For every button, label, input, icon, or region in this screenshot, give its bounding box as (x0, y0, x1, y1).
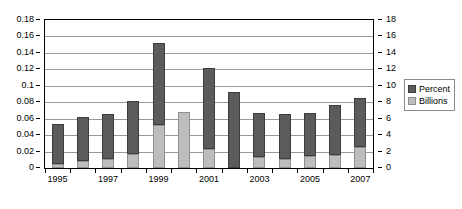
x-axis-labels: 1995199719992001200320052007 (45, 172, 373, 188)
y-tick-mark-left (36, 151, 40, 152)
y-tick-mark-left (36, 134, 40, 135)
y-tick-label-left: 0.1 (21, 81, 34, 90)
bar-segment-billions (329, 155, 341, 168)
bar-column (304, 20, 316, 168)
y-tick-label-right: 4 (386, 130, 391, 139)
bar-segment-percent (228, 92, 240, 168)
bar-segment-billions (127, 154, 139, 168)
y-tick-label-right: 14 (386, 48, 396, 57)
bar-segment-billions (178, 112, 190, 168)
bar-segment-percent (153, 43, 165, 125)
y-tick-label-right: 18 (386, 15, 396, 24)
bar-segment-billions (354, 147, 366, 168)
y-tick-mark-left (36, 68, 40, 69)
x-tick-mark (373, 169, 374, 173)
y-tick-label-right: 0 (386, 163, 391, 172)
bar-column (354, 20, 366, 168)
y-tick-mark-right (378, 35, 382, 36)
bar-segment-percent (52, 124, 64, 163)
bar-column (203, 20, 215, 168)
chart-legend: Percent Billions (404, 79, 455, 111)
bar-segment-percent (203, 68, 215, 149)
bar-column (52, 20, 64, 168)
y-tick-label-right: 2 (386, 147, 391, 156)
y-tick-mark-left (36, 118, 40, 119)
y-tick-label-left: 0.08 (16, 97, 34, 106)
bar-segment-percent (77, 117, 89, 161)
y-tick-label-left: 0.06 (16, 114, 34, 123)
y-tick-mark-right (378, 52, 382, 53)
bar-segment-billions (279, 159, 291, 168)
y-tick-mark-right (378, 134, 382, 135)
bar-column (153, 20, 165, 168)
legend-label-billions: Billions (419, 96, 448, 106)
y-tick-mark-left (36, 167, 40, 168)
x-axis-label: 1995 (45, 174, 70, 184)
y-tick-mark-left (36, 35, 40, 36)
legend-swatch-billions-icon (408, 97, 416, 105)
bar-column (228, 20, 240, 168)
legend-item-billions: Billions (408, 95, 450, 107)
y-tick-mark-right (378, 101, 382, 102)
y-tick-mark-left (36, 52, 40, 53)
y-tick-label-left: 0.02 (16, 147, 34, 156)
bar-segment-billions (253, 157, 265, 169)
bar-segment-percent (127, 101, 139, 154)
bar-segment-billions (102, 159, 114, 168)
y-tick-label-left: 0.16 (16, 31, 34, 40)
bar-segment-percent (354, 98, 366, 147)
bar-segment-billions (77, 161, 89, 168)
y-tick-label-left: 0.18 (16, 15, 34, 24)
y-tick-mark-right (378, 167, 382, 168)
bar-column (77, 20, 89, 168)
chart-container: 0.180.160.140.120.10.080.060.040.020 181… (0, 0, 462, 209)
legend-swatch-percent-icon (408, 85, 416, 93)
y-tick-mark-right (378, 68, 382, 69)
x-axis-label: 1997 (95, 174, 120, 184)
bar-segment-billions (203, 149, 215, 168)
y-tick-label-right: 8 (386, 97, 391, 106)
y-tick-label-left: 0 (29, 163, 34, 172)
y-axis-left: 0.180.160.140.120.10.080.060.040.020 (0, 19, 40, 169)
y-tick-label-right: 16 (386, 31, 396, 40)
x-axis-label: 2003 (247, 174, 272, 184)
bars-layer (45, 20, 373, 168)
legend-item-percent: Percent (408, 83, 450, 95)
legend-label-percent: Percent (419, 84, 450, 94)
x-axis-label: 1999 (146, 174, 171, 184)
y-tick-mark-right (378, 151, 382, 152)
bar-segment-percent (304, 113, 316, 156)
y-tick-mark-left (36, 101, 40, 102)
y-tick-label-right: 12 (386, 64, 396, 73)
bar-segment-billions (52, 164, 64, 168)
y-tick-label-left: 0.12 (16, 64, 34, 73)
y-tick-label-right: 6 (386, 114, 391, 123)
bar-segment-billions (304, 156, 316, 168)
bar-segment-billions (153, 125, 165, 168)
bar-segment-percent (329, 105, 341, 155)
x-axis-label: 2001 (196, 174, 221, 184)
bar-segment-percent (253, 113, 265, 157)
bar-column (253, 20, 265, 168)
x-axis-label: 2007 (348, 174, 373, 184)
y-tick-label-left: 0.14 (16, 48, 34, 57)
x-axis-label: 2005 (297, 174, 322, 184)
y-tick-mark-right (378, 85, 382, 86)
bar-column (127, 20, 139, 168)
bar-column (178, 20, 190, 168)
y-tick-mark-right (378, 118, 382, 119)
bar-column (102, 20, 114, 168)
y-tick-mark-right (378, 19, 382, 20)
bar-segment-percent (279, 114, 291, 159)
bar-segment-percent (102, 114, 114, 159)
y-tick-mark-left (36, 19, 40, 20)
y-tick-label-right: 10 (386, 81, 396, 90)
y-tick-mark-left (36, 85, 40, 86)
y-tick-label-left: 0.04 (16, 130, 34, 139)
bar-column (329, 20, 341, 168)
bar-column (279, 20, 291, 168)
